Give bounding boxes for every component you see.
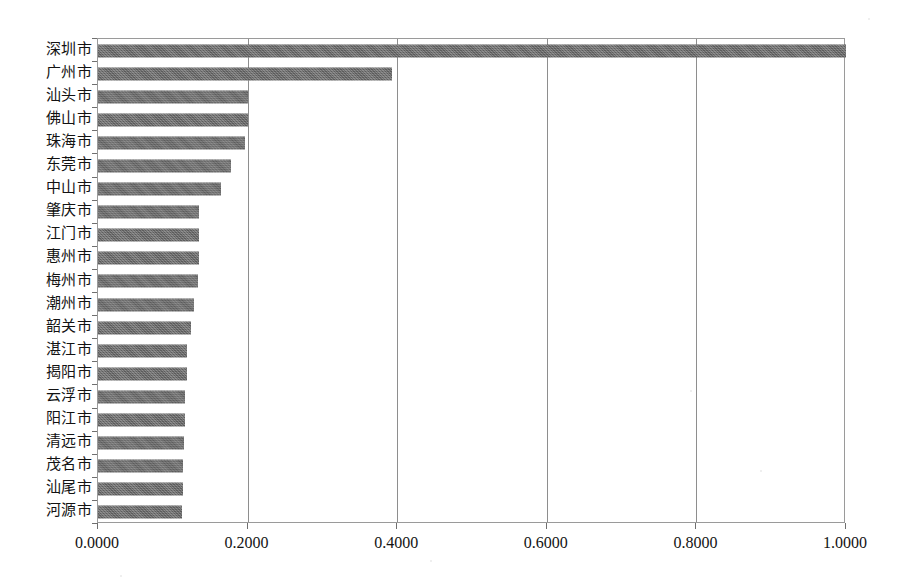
plot-area xyxy=(97,38,845,523)
y-axis-tick xyxy=(92,200,97,201)
y-axis-tick xyxy=(92,361,97,362)
y-axis-tick xyxy=(92,338,97,339)
scan-speckle xyxy=(760,470,762,472)
y-axis-label: 清远市 xyxy=(0,434,92,449)
y-axis-tick xyxy=(92,84,97,85)
bar-row xyxy=(98,39,844,62)
y-axis-label: 云浮市 xyxy=(0,388,92,403)
bar-row xyxy=(98,478,844,501)
x-axis-tick xyxy=(247,523,248,529)
bar-row xyxy=(98,339,844,362)
y-axis-tick xyxy=(92,107,97,108)
y-axis-label: 汕头市 xyxy=(0,88,92,103)
bar-row xyxy=(98,501,844,524)
y-axis-label: 中山市 xyxy=(0,180,92,195)
bar-row xyxy=(98,178,844,201)
x-axis-tick xyxy=(546,523,547,529)
y-axis-label: 韶关市 xyxy=(0,319,92,334)
y-axis-label: 佛山市 xyxy=(0,111,92,126)
y-axis-label: 茂名市 xyxy=(0,457,92,472)
y-axis-category-labels: 深圳市广州市汕头市佛山市珠海市东莞市中山市肇庆市江门市惠州市梅州市潮州市韶关市湛… xyxy=(0,38,92,523)
y-axis-tick xyxy=(92,153,97,154)
y-axis-label: 河源市 xyxy=(0,503,92,518)
bar xyxy=(98,390,185,403)
bar xyxy=(98,298,194,311)
y-axis-tick xyxy=(92,523,97,524)
y-axis-tick xyxy=(92,61,97,62)
y-axis-label: 肇庆市 xyxy=(0,203,92,218)
bar xyxy=(98,160,231,173)
y-axis-label: 江门市 xyxy=(0,226,92,241)
bar-row xyxy=(98,154,844,177)
y-axis-tick xyxy=(92,384,97,385)
bar xyxy=(98,67,392,80)
bar xyxy=(98,183,221,196)
x-axis-tick-label: 0.2000 xyxy=(192,534,302,552)
bar xyxy=(98,206,199,219)
y-axis-label: 广州市 xyxy=(0,65,92,80)
bar-row xyxy=(98,455,844,478)
bar-row xyxy=(98,62,844,85)
y-axis-tick xyxy=(92,500,97,501)
bar xyxy=(98,252,199,265)
y-axis-label: 潮州市 xyxy=(0,296,92,311)
y-axis-label: 湛江市 xyxy=(0,342,92,357)
bar xyxy=(98,321,191,334)
y-axis-tick xyxy=(92,477,97,478)
bar xyxy=(98,275,198,288)
bar-row xyxy=(98,224,844,247)
scan-speckle xyxy=(868,18,870,20)
y-axis-label: 汕尾市 xyxy=(0,480,92,495)
y-axis-label: 惠州市 xyxy=(0,249,92,264)
scan-speckle xyxy=(430,560,432,562)
bar-row xyxy=(98,131,844,154)
scan-speckle xyxy=(690,390,692,392)
bar xyxy=(98,483,183,496)
x-axis-tick xyxy=(845,523,846,529)
bars-layer xyxy=(98,39,844,522)
bar-row xyxy=(98,247,844,270)
y-axis-tick xyxy=(92,269,97,270)
y-axis-label: 珠海市 xyxy=(0,134,92,149)
y-axis-tick xyxy=(92,431,97,432)
y-axis-tick xyxy=(92,130,97,131)
y-axis-tick xyxy=(92,408,97,409)
bar-row xyxy=(98,108,844,131)
bar-row xyxy=(98,316,844,339)
bar xyxy=(98,367,187,380)
bar-row xyxy=(98,385,844,408)
scan-speckle xyxy=(120,575,122,577)
bar xyxy=(98,344,187,357)
bar-row xyxy=(98,362,844,385)
y-axis-tick xyxy=(92,454,97,455)
bar xyxy=(98,90,248,103)
y-axis-tick xyxy=(92,223,97,224)
x-axis-tick xyxy=(695,523,696,529)
x-axis-tick xyxy=(396,523,397,529)
bar-row xyxy=(98,270,844,293)
x-axis-tick-label: 0.6000 xyxy=(491,534,601,552)
bar xyxy=(98,414,185,427)
bar-row xyxy=(98,409,844,432)
bar-row xyxy=(98,293,844,316)
bar xyxy=(98,113,248,126)
x-axis-tick-label: 0.4000 xyxy=(341,534,451,552)
horizontal-bar-chart: 深圳市广州市汕头市佛山市珠海市东莞市中山市肇庆市江门市惠州市梅州市潮州市韶关市湛… xyxy=(0,0,900,588)
y-axis-tick xyxy=(92,246,97,247)
bar xyxy=(98,229,199,242)
bar xyxy=(98,460,183,473)
y-axis-tick xyxy=(92,292,97,293)
bar xyxy=(98,437,184,450)
bar xyxy=(98,44,846,57)
bar xyxy=(98,136,245,149)
y-axis-label: 揭阳市 xyxy=(0,365,92,380)
x-axis-tick-label: 0.0000 xyxy=(42,534,152,552)
y-axis-label: 梅州市 xyxy=(0,273,92,288)
x-axis-tick-label: 0.8000 xyxy=(640,534,750,552)
x-axis-tick xyxy=(97,523,98,529)
bar xyxy=(98,506,182,519)
y-axis-tick xyxy=(92,177,97,178)
y-axis-label: 深圳市 xyxy=(0,42,92,57)
y-axis-label: 东莞市 xyxy=(0,157,92,172)
y-axis-label: 阳江市 xyxy=(0,411,92,426)
